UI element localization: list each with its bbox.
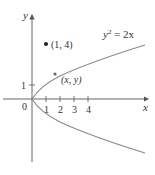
- point-1-4-label: (1, 4): [51, 39, 73, 51]
- x-axis-label: x: [142, 101, 148, 113]
- equation-label: y2 = 2x: [102, 28, 135, 40]
- origin-label: 0: [22, 101, 27, 112]
- x-tick-4: 4: [86, 104, 91, 115]
- y-axis-label: y: [22, 9, 28, 21]
- point-xy-marker: [53, 72, 56, 75]
- y-tick-1: 1: [21, 80, 26, 91]
- y-axis: 1 0 y: [21, 9, 35, 162]
- x-tick-3: 3: [72, 104, 77, 115]
- parabola-figure: 1 2 3 4 x 1 0 y y2 = 2x (1, 4) (x, y): [0, 0, 155, 175]
- point-xy-label: (x, y): [61, 74, 82, 86]
- point-1-4-marker: [44, 42, 48, 46]
- x-tick-2: 2: [58, 104, 63, 115]
